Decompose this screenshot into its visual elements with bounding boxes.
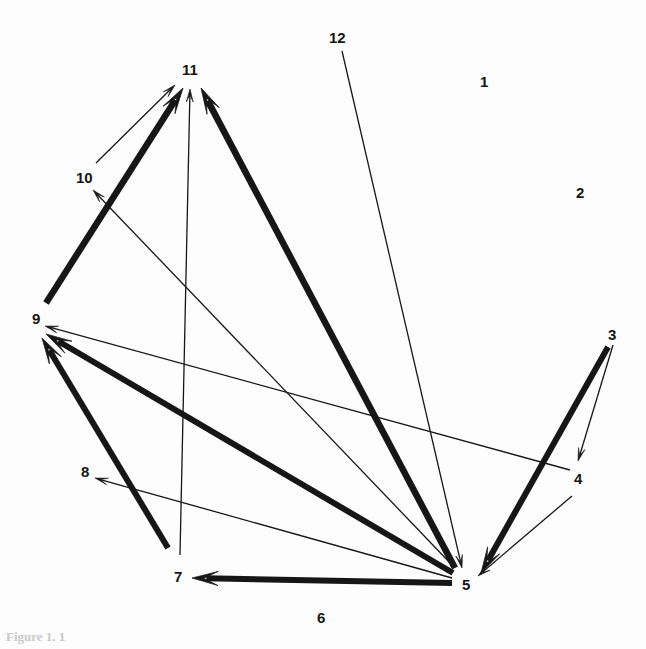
caption-strip: Figure 1. 1: [0, 627, 646, 649]
edges-layer: [42, 51, 613, 585]
node-label-10[interactable]: 10: [76, 170, 93, 185]
edge-4-to-9: [45, 326, 570, 470]
edge-5-to-11: [201, 88, 455, 568]
edge-4-to-5: [478, 496, 572, 576]
node-label-4[interactable]: 4: [574, 471, 582, 486]
node-label-6[interactable]: 6: [317, 610, 325, 625]
node-label-11[interactable]: 11: [182, 62, 198, 77]
edge-5-to-8: [95, 478, 452, 578]
figure-root: 123456789101112 Figure 1. 1: [0, 0, 646, 649]
node-label-12[interactable]: 12: [329, 30, 346, 45]
edge-3-to-4: [578, 345, 613, 461]
node-label-9[interactable]: 9: [32, 311, 40, 326]
graph-canvas: [0, 0, 646, 649]
node-label-7[interactable]: 7: [174, 569, 182, 584]
edge-12-to-5: [342, 51, 462, 568]
node-label-3[interactable]: 3: [608, 327, 616, 342]
edge-7-to-11: [180, 89, 193, 555]
node-label-1[interactable]: 1: [480, 74, 488, 89]
edge-5-to-7: [192, 572, 452, 586]
node-label-8[interactable]: 8: [81, 464, 89, 479]
edge-3-to-5: [481, 347, 608, 573]
node-label-5[interactable]: 5: [462, 577, 470, 592]
figure-caption: Figure 1. 1: [6, 629, 65, 645]
edge-9-to-11: [46, 88, 183, 303]
node-label-2[interactable]: 2: [576, 185, 584, 200]
